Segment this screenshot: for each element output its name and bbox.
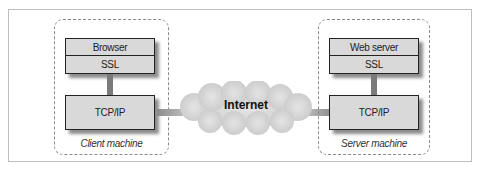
server-webserver-layer: Web server xyxy=(329,38,419,56)
server-machine-caption: Server machine xyxy=(318,138,430,149)
client-application-stack: Browser SSL xyxy=(65,38,155,74)
server-tcpip-box: TCP/IP xyxy=(329,95,419,130)
client-ssl-tcp-connector xyxy=(107,74,113,95)
server-application-stack: Web server SSL xyxy=(329,38,419,74)
client-browser-layer: Browser xyxy=(65,38,155,56)
server-ssl-layer: SSL xyxy=(329,56,419,74)
client-machine-caption: Client machine xyxy=(54,138,169,149)
internet-label: Internet xyxy=(172,98,320,112)
client-ssl-layer: SSL xyxy=(65,56,155,74)
server-ssl-tcp-connector xyxy=(371,74,377,95)
client-tcpip-box: TCP/IP xyxy=(65,95,155,130)
